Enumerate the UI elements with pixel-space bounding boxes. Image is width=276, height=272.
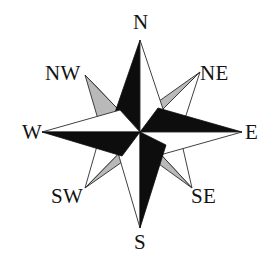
compass-rose-figure: N NE E SE S SW W NW — [0, 0, 276, 272]
label-southwest: SW — [51, 186, 83, 207]
label-northwest: NW — [45, 63, 81, 84]
label-south: S — [134, 232, 146, 253]
point-east-dark-half — [140, 108, 242, 132]
point-west — [42, 110, 140, 156]
point-south-dark-half — [140, 132, 166, 228]
label-west: W — [22, 122, 42, 143]
label-north: N — [133, 12, 148, 33]
label-southeast: SE — [191, 186, 216, 207]
label-northeast: NE — [200, 63, 229, 84]
label-east: E — [245, 122, 258, 143]
